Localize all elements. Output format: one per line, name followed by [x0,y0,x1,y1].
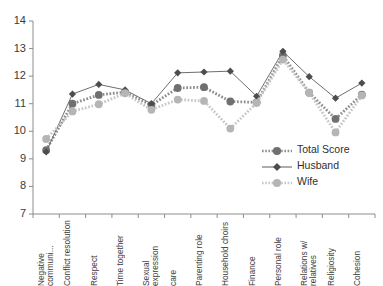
x-tick-label: Parenting role [195,220,214,286]
legend-key-husband [262,159,292,171]
x-tick-label: Respect [90,220,109,286]
x-tick-label: Relations w/ relatives [300,220,319,286]
data-series [42,48,365,156]
legend-label-wife: Wife [297,175,318,187]
legend-item-husband: Husband [262,158,380,172]
y-tick-label: 14 [8,15,26,26]
y-tick-label: 7 [8,208,26,219]
x-tick-label: Household choirs [221,220,240,286]
y-tick-label: 11 [8,98,26,109]
legend-label-total-score: Total Score [297,143,350,155]
legend-key-total-score [262,143,292,155]
x-tick-label: Time together [116,220,135,286]
x-tick-label: Finance [248,220,267,286]
x-tick-label: Religiosity [327,220,346,286]
x-tick-label: care [169,220,188,286]
legend-item-total-score: Total Score [262,142,380,156]
legend-label-husband: Husband [297,159,339,171]
chart-legend: Total Score Husband Wife [262,142,380,190]
y-tick-label: 13 [8,43,26,54]
y-tick-label: 10 [8,125,26,136]
y-tick-label: 12 [8,70,26,81]
x-tick-label: Personal role [274,220,293,286]
x-tick-label: Conflict resolution [63,220,82,286]
x-tick-label: Cohesion [353,220,372,286]
x-tick-label: Sexual expression [142,220,161,286]
y-tick-label: 8 [8,180,26,191]
legend-item-wife: Wife [262,174,380,188]
y-tick-label: 9 [8,153,26,164]
legend-key-wife [262,175,292,187]
x-tick-label: Negative communi... [37,220,56,286]
